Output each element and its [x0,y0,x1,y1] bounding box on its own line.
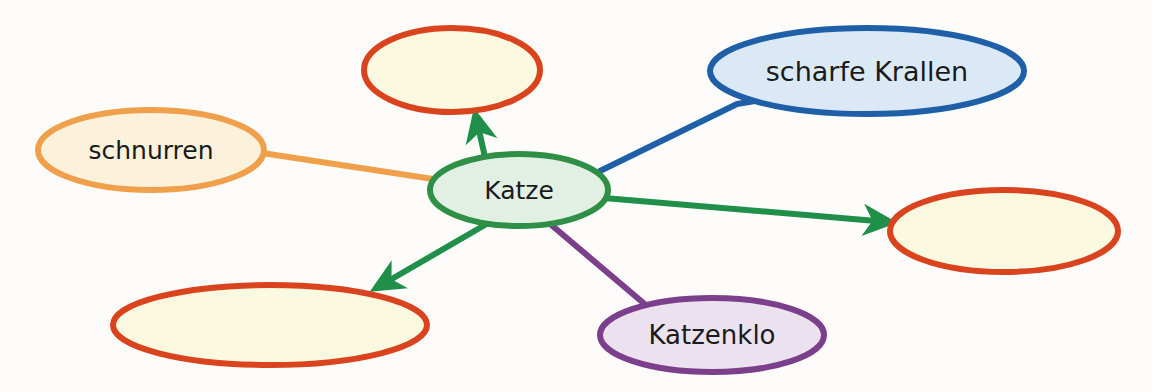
node-bottomleft-empty-ellipse[interactable] [113,285,427,365]
mind-map-graphics [0,0,1152,392]
connector-katze-to-scharfe-krallen [600,99,766,171]
connector-schnurren-to-katze [262,153,433,179]
connector-arrow-katze-to-right-empty [604,198,888,222]
node-right-empty-ellipse[interactable] [890,190,1118,272]
node-schnurren-ellipse[interactable] [38,110,264,190]
mind-map-canvas: Katze scharfe Krallen schnurren Katzenkl… [0,0,1152,392]
node-layer [38,28,1118,372]
node-katze-center-ellipse[interactable] [430,154,608,226]
node-scharfe-krallen-ellipse[interactable] [710,28,1024,114]
connector-katze-to-katzenklo [549,223,647,306]
node-katzenklo-ellipse[interactable] [600,298,824,372]
connector-arrow-katze-to-bottomleft-empty [378,222,490,287]
node-top-empty-ellipse[interactable] [364,28,540,112]
